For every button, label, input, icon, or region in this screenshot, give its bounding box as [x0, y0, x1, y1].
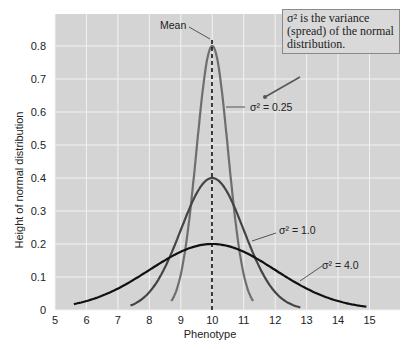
y-axis-label: Height of normal distribution — [13, 112, 25, 249]
y-tick-label: 0.2 — [31, 238, 46, 250]
label-variance-1: σ² = 1.0 — [279, 224, 316, 236]
x-tick-label: 8 — [146, 314, 152, 326]
callout-dot — [263, 95, 267, 99]
x-axis-label: Phenotype — [184, 328, 237, 340]
label-variance-025: σ² = 0.25 — [250, 101, 293, 113]
x-tick-label: 11 — [238, 314, 249, 326]
x-tick-label: 6 — [83, 314, 89, 326]
mean-label: Mean — [160, 19, 186, 31]
x-tick-label: 7 — [115, 314, 121, 326]
y-tick-label: 0.3 — [31, 205, 46, 217]
y-tick-label: 0 — [40, 304, 46, 316]
x-tick-label: 9 — [178, 314, 184, 326]
y-tick-label: 0.8 — [31, 40, 46, 52]
x-tick-label: 12 — [269, 314, 281, 326]
x-axis-ticks: 56789101112131415 — [52, 314, 376, 326]
y-axis-ticks: 00.10.20.30.40.50.60.70.8 — [31, 40, 46, 316]
variance-callout: σ² is the variance (spread) of the norma… — [282, 9, 400, 54]
x-tick-label: 10 — [206, 314, 218, 326]
y-tick-label: 0.5 — [31, 139, 46, 151]
x-tick-label: 5 — [52, 314, 58, 326]
y-tick-label: 0.6 — [31, 106, 46, 118]
x-tick-label: 15 — [363, 314, 375, 326]
y-tick-label: 0.4 — [31, 172, 46, 184]
y-tick-label: 0.7 — [31, 73, 46, 85]
x-tick-label: 13 — [300, 314, 312, 326]
x-tick-label: 14 — [332, 314, 344, 326]
y-tick-label: 0.1 — [31, 271, 46, 283]
label-variance-4: σ² = 4.0 — [322, 259, 359, 271]
